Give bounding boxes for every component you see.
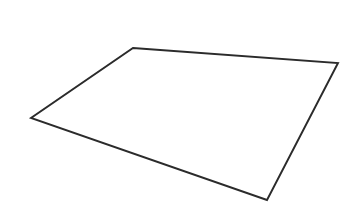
canvas-background (0, 0, 355, 217)
drawing-canvas (0, 0, 355, 217)
shape-svg (0, 0, 355, 217)
